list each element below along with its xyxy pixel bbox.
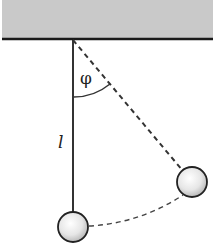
angle-label: φ bbox=[80, 68, 92, 88]
bob-rest bbox=[58, 212, 88, 242]
displaced-string bbox=[73, 40, 183, 171]
ceiling bbox=[2, 0, 213, 38]
trajectory-arc bbox=[89, 195, 183, 226]
pendulum-diagram: φ l bbox=[0, 0, 219, 249]
bob-displaced bbox=[177, 167, 207, 197]
length-label: l bbox=[58, 132, 63, 152]
